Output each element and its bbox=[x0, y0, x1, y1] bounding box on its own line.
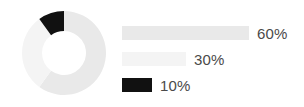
legend-swatch-30 bbox=[122, 52, 186, 66]
legend-label-60: 60% bbox=[257, 26, 288, 41]
donut-chart-svg bbox=[21, 10, 107, 96]
legend-swatch-10 bbox=[122, 78, 152, 92]
legend-label-30: 30% bbox=[194, 52, 225, 67]
legend-item-60[interactable]: 60% bbox=[122, 22, 288, 44]
legend-item-10[interactable]: 10% bbox=[122, 74, 191, 96]
donut-chart bbox=[21, 10, 107, 96]
donut-slice-30[interactable] bbox=[22, 19, 51, 87]
legend-label-10: 10% bbox=[160, 78, 191, 93]
donut-slice-group bbox=[22, 11, 106, 95]
legend-swatch-60 bbox=[122, 26, 249, 40]
donut-chart-infographic: 60% 30% 10% bbox=[0, 0, 304, 107]
legend: 60% 30% 10% bbox=[122, 18, 304, 96]
legend-item-30[interactable]: 30% bbox=[122, 48, 225, 70]
